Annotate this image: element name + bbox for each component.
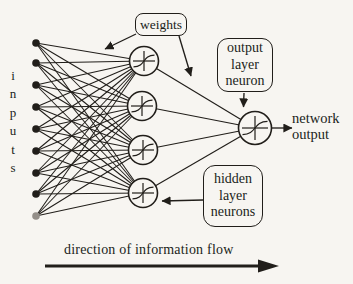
hidden-layer-neuron: [130, 47, 159, 76]
inputs-letter: s: [6, 159, 20, 177]
input-node-dot: [32, 59, 40, 67]
input-hidden-connection-line: [36, 193, 143, 216]
hidden-box-line: neurons: [211, 204, 255, 221]
weights-label-box: weights: [135, 13, 187, 36]
output-layer-neuron: [239, 112, 272, 145]
hidden-box-line: layer: [219, 188, 247, 205]
inputs-letter: u: [6, 122, 20, 140]
input-node-dot: [32, 212, 40, 220]
output-box-pointer-arrow: [244, 93, 245, 107]
hidden-layer-neurons-label-box: hidden layer neurons: [203, 165, 263, 227]
hidden-box-line: hidden: [214, 171, 252, 188]
output-layer-neuron-label-box: output layer neuron: [217, 38, 273, 92]
hidden-layer-neuron: [129, 136, 158, 165]
output-box-line: layer: [231, 57, 259, 74]
flow-direction-label: direction of information flow: [64, 242, 233, 258]
input-hidden-connection-line: [36, 61, 144, 63]
hidden-box-pointer-arrow: [162, 200, 203, 201]
flow-direction-arrow: [45, 260, 279, 273]
weights-label: weights: [140, 18, 182, 32]
input-node-dot: [32, 125, 40, 133]
input-node-dot: [32, 147, 40, 155]
hidden-layer-neuron: [128, 92, 157, 121]
inputs-label: i n p u t s: [6, 67, 20, 177]
network-output-line: output: [292, 127, 340, 143]
input-hidden-connection-line: [36, 150, 143, 173]
inputs-letter: i: [6, 67, 20, 85]
figure-canvas: i n p u t s weights output layer neuron …: [0, 0, 353, 284]
input-node-dot: [32, 81, 40, 89]
inputs-letter: p: [6, 104, 20, 122]
hidden-layer-neuron: [129, 179, 158, 208]
input-hidden-connection-line: [36, 43, 144, 61]
input-node-dot: [32, 103, 40, 111]
input-node-dot: [32, 39, 40, 47]
input-node-dot: [32, 190, 40, 198]
input-node-dot: [32, 169, 40, 177]
inputs-letter: n: [6, 85, 20, 103]
weights-pointer-arrow-left: [105, 34, 136, 49]
weights-pointer-arrow-right: [179, 36, 191, 76]
network-output-label: network output: [292, 111, 340, 142]
output-box-line: neuron: [226, 73, 265, 90]
inputs-letter: t: [6, 141, 20, 159]
output-box-line: output: [227, 40, 263, 57]
network-output-line: network: [292, 111, 340, 127]
